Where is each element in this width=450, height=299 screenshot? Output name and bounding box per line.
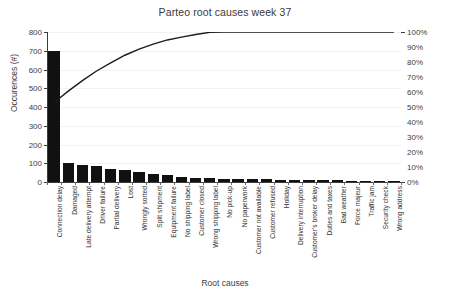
x-axis-category-label: No paperwork: [241, 186, 248, 227]
x-axis-category-label: Equipment failure: [170, 186, 177, 238]
x-axis-tick-mark: [217, 182, 218, 185]
x-axis-tick-mark: [231, 182, 232, 185]
x-axis-category-label: Late delivery attempt: [85, 186, 92, 248]
secondary-y-axis-tick-label: 70%: [407, 73, 447, 82]
y-axis-title: Occurences (#): [9, 28, 19, 138]
bottom-axis-line: [47, 182, 401, 183]
x-axis-tick-mark: [245, 182, 246, 185]
x-axis-tick-mark: [387, 182, 388, 185]
x-axis-category-label: No shipping label: [184, 186, 191, 237]
y-axis-tick-label: 0: [0, 178, 42, 187]
x-axis-category-label: Traffic jam: [368, 186, 375, 217]
x-axis-category-label: Bad weather: [340, 186, 347, 223]
x-axis-tick-mark: [330, 182, 331, 185]
secondary-y-axis-tick-label: 0%: [407, 178, 447, 187]
x-axis-category-label: Security check: [382, 186, 389, 229]
secondary-y-axis-tick-label: 30%: [407, 133, 447, 142]
secondary-y-axis-tick-label: 20%: [407, 148, 447, 157]
x-axis-category-label: Customer refused: [269, 186, 276, 239]
y-axis-tick-mark: [44, 51, 47, 52]
secondary-y-axis-tick-label: 90%: [407, 43, 447, 52]
x-axis-tick-mark: [89, 182, 90, 185]
x-axis-tick-mark: [316, 182, 317, 185]
secondary-y-axis-tick-label: 100%: [407, 28, 447, 37]
y-axis-tick-label: 800: [0, 28, 42, 37]
secondary-y-axis-tick-label: 10%: [407, 163, 447, 172]
x-axis-category-label: Wrong address: [396, 186, 403, 231]
x-axis-category-label: No pick-up: [226, 186, 233, 218]
y-axis-tick-mark: [44, 126, 47, 127]
x-axis-tick-mark: [344, 182, 345, 185]
x-axis-tick-mark: [118, 182, 119, 185]
x-axis-category-label: Delivery interruption: [297, 186, 304, 245]
x-axis-tick-mark: [401, 182, 402, 185]
y-axis-tick-label: 100: [0, 159, 42, 168]
secondary-y-axis-tick-label: 80%: [407, 58, 447, 67]
secondary-y-axis-tick-label: 50%: [407, 103, 447, 112]
x-axis-category-labels: Connection delayDamagedLate delivery att…: [47, 186, 401, 272]
x-axis-category-label: Customer closed: [198, 186, 205, 236]
y-axis-tick-mark: [44, 70, 47, 71]
x-axis-title: Root causes: [0, 278, 450, 288]
x-axis-tick-mark: [189, 182, 190, 185]
x-axis-category-label: Damaged: [71, 186, 78, 215]
x-axis-tick-mark: [373, 182, 374, 185]
x-axis-tick-mark: [75, 182, 76, 185]
y-axis-tick-mark: [44, 163, 47, 164]
y-axis-tick-label: 200: [0, 140, 42, 149]
y-axis-tick-mark: [44, 145, 47, 146]
x-axis-tick-mark: [104, 182, 105, 185]
x-axis-tick-mark: [302, 182, 303, 185]
x-axis-category-label: Lost: [127, 186, 134, 199]
y-axis-ticks: 01002003004005006007008000%10%20%30%40%5…: [0, 32, 450, 182]
x-axis-tick-mark: [146, 182, 147, 185]
x-axis-category-label: Customer not available: [255, 186, 262, 254]
secondary-y-axis-tick-mark: [401, 32, 405, 33]
x-axis-category-label: Wrongly sorted: [141, 186, 148, 231]
x-axis-category-label: Duties and taxes: [326, 186, 333, 235]
y-axis-tick-mark: [44, 32, 47, 33]
x-axis-tick-mark: [47, 182, 48, 185]
y-axis-tick-mark: [44, 107, 47, 108]
x-axis-category-label: Split shipment: [156, 186, 163, 228]
x-axis-tick-mark: [174, 182, 175, 185]
x-axis-tick-mark: [203, 182, 204, 185]
x-axis-category-label: Holiday: [283, 186, 290, 208]
secondary-y-axis-tick-label: 60%: [407, 88, 447, 97]
y-axis-tick-label: 400: [0, 103, 42, 112]
pareto-chart: Parteo root causes week 37 0100200300400…: [0, 0, 450, 299]
x-axis-tick-mark: [132, 182, 133, 185]
y-axis-tick-mark: [44, 88, 47, 89]
x-axis-tick-mark: [359, 182, 360, 185]
chart-title: Parteo root causes week 37: [0, 6, 450, 18]
x-axis-category-label: Force majeur: [354, 186, 361, 225]
y-axis-tick-label: 600: [0, 65, 42, 74]
x-axis-tick-mark: [288, 182, 289, 185]
x-axis-tick-mark: [259, 182, 260, 185]
x-axis-category-label: Customer's broker delay: [311, 186, 318, 258]
secondary-y-axis-tick-label: 40%: [407, 118, 447, 127]
y-axis-tick-label: 500: [0, 84, 42, 93]
x-axis-category-label: Connection delay: [56, 186, 63, 237]
x-axis-category-label: Wrong shipping label: [212, 186, 219, 248]
x-axis-tick-mark: [160, 182, 161, 185]
x-axis-category-label: Driver failure: [99, 186, 106, 224]
y-axis-tick-label: 300: [0, 121, 42, 130]
y-axis-tick-label: 700: [0, 46, 42, 55]
x-axis-tick-mark: [274, 182, 275, 185]
x-axis-category-label: Partial delivery: [113, 186, 120, 230]
x-axis-tick-mark: [61, 182, 62, 185]
